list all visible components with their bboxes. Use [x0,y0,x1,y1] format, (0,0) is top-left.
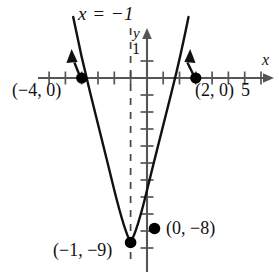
x-axis [38,73,274,83]
point-vertex [125,237,137,249]
label-root-right: (2, 0) [195,81,234,99]
point-root-left [76,72,87,83]
y-axis [142,28,152,272]
axis-of-symmetry-label: x = −1 [78,4,134,23]
y-tick-label-1: 1 [132,41,140,57]
graph-figure: ) x = −1 y x 1 5 (−4, 0) (2, 0) (−1, −9)… [0,0,279,279]
label-root-left: (−4, 0) [12,81,61,99]
point-y-intercept [149,223,161,235]
y-axis-label: y [133,26,140,41]
curve-arrow-left [66,49,80,77]
label-y-intercept: (0, −8) [166,219,215,237]
x-axis-label: x [262,52,269,68]
x-tick-label-5: 5 [241,81,250,99]
label-vertex: (−1, −9) [53,241,112,259]
